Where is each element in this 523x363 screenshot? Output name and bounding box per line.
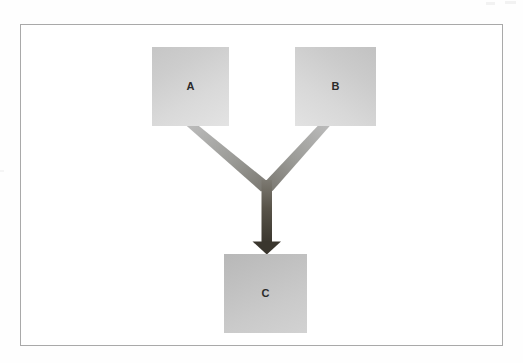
scan-artifact-icon: [0, 170, 4, 172]
node-b[interactable]: B: [295, 47, 376, 126]
node-a-label: A: [186, 80, 194, 92]
scan-artifact-icon: [486, 2, 495, 5]
scan-artifact-icon: [505, 1, 516, 4]
node-b-label: B: [331, 80, 339, 92]
diagram-canvas: A B C: [0, 0, 523, 363]
node-c[interactable]: C: [224, 254, 307, 333]
node-c-label: C: [261, 287, 269, 299]
node-a[interactable]: A: [152, 47, 229, 126]
